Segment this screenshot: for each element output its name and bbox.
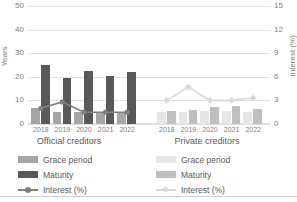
bars-private: [156, 6, 264, 124]
y-tick-left: 40: [6, 26, 24, 34]
y-tick-left: 10: [6, 96, 24, 104]
plot-area: [28, 6, 270, 124]
bar-cluster: [156, 6, 178, 124]
legend-line-icon: [18, 185, 38, 194]
x-tick-2020: 2020: [73, 124, 95, 136]
bar-grace-period: [157, 112, 166, 124]
legend-line-icon: [156, 185, 176, 194]
legend-label: Interest (%): [43, 185, 87, 195]
y-tick-left: 0: [6, 120, 24, 128]
bar-grace-period: [117, 112, 126, 124]
legend-label: Maturity: [43, 170, 73, 180]
x-tick-2019: 2019: [52, 124, 74, 136]
legend-item[interactable]: Maturity: [156, 167, 296, 182]
legend-item[interactable]: Grace period: [156, 152, 296, 167]
bar-cluster: [242, 6, 264, 124]
group-title-private: Private creditors: [140, 136, 274, 146]
bar-maturity: [106, 76, 115, 124]
chart-container: Years Interest (%) 50403020100 15129630 …: [0, 0, 297, 202]
y-tick-right: 3: [274, 96, 292, 104]
bar-cluster: [116, 6, 138, 124]
bars-official: [30, 6, 138, 124]
y-tick-right: 12: [274, 26, 292, 34]
x-tick-2018: 2018: [30, 124, 52, 136]
bar-grace-period: [53, 112, 62, 124]
x-tick-2022: 2022: [242, 124, 264, 136]
x-tick-2018: 2018: [156, 124, 178, 136]
bar-grace-period: [31, 108, 40, 124]
legend-label: Grace period: [181, 155, 230, 165]
x-tick-2019: 2019: [178, 124, 200, 136]
bar-cluster: [73, 6, 95, 124]
x-ticks-private: 20182019202020212022: [156, 124, 264, 136]
y-tick-left: 20: [6, 73, 24, 81]
bar-grace-period: [222, 111, 231, 124]
series-group-official: [30, 6, 138, 124]
bar-grace-period: [200, 111, 209, 124]
y-tick-right: 6: [274, 73, 292, 81]
legend-item[interactable]: Maturity: [18, 167, 158, 182]
legend-swatch-icon: [18, 171, 38, 178]
legend-official: Grace periodMaturityInterest (%): [18, 152, 158, 197]
bar-maturity: [232, 106, 241, 124]
legend-label: Grace period: [43, 155, 92, 165]
bar-maturity: [210, 107, 219, 124]
group-title-official: Official creditors: [2, 136, 136, 146]
legend-swatch-icon: [156, 156, 176, 163]
bottom-margin: [0, 198, 297, 202]
bar-maturity: [127, 72, 136, 124]
legend-private: Grace periodMaturityInterest (%): [156, 152, 296, 197]
bar-cluster: [178, 6, 200, 124]
y-tick-left: 30: [6, 49, 24, 57]
bottom-divider: [0, 196, 297, 197]
bar-grace-period: [179, 112, 188, 124]
y-tick-right: 15: [274, 2, 292, 10]
bar-cluster: [95, 6, 117, 124]
bar-grace-period: [243, 112, 252, 124]
legend-label: Interest (%): [181, 185, 225, 195]
bar-maturity: [189, 110, 198, 124]
y-tick-right: 0: [274, 120, 292, 128]
x-tick-2021: 2021: [221, 124, 243, 136]
x-tick-2021: 2021: [95, 124, 117, 136]
bar-maturity: [84, 71, 93, 124]
bar-cluster: [221, 6, 243, 124]
legend-swatch-icon: [18, 156, 38, 163]
bar-cluster: [30, 6, 52, 124]
bar-cluster: [199, 6, 221, 124]
legend-label: Maturity: [181, 170, 211, 180]
legend-item[interactable]: Interest (%): [156, 182, 296, 197]
x-ticks-official: 20182019202020212022: [30, 124, 138, 136]
bar-maturity: [253, 109, 262, 124]
bar-maturity: [63, 78, 72, 124]
y-tick-left: 50: [6, 2, 24, 10]
legend-swatch-icon: [156, 171, 176, 178]
x-axis-ticks: 20182019202020212022 2018201920202021202…: [28, 124, 270, 136]
bar-maturity: [167, 111, 176, 124]
legend-item[interactable]: Grace period: [18, 152, 158, 167]
bar-cluster: [52, 6, 74, 124]
series-group-private: [156, 6, 264, 124]
x-tick-2020: 2020: [199, 124, 221, 136]
bar-maturity: [41, 65, 50, 124]
legend-item[interactable]: Interest (%): [18, 182, 158, 197]
bar-grace-period: [96, 112, 105, 124]
bar-grace-period: [74, 112, 83, 124]
y-tick-right: 9: [274, 49, 292, 57]
x-tick-2022: 2022: [116, 124, 138, 136]
